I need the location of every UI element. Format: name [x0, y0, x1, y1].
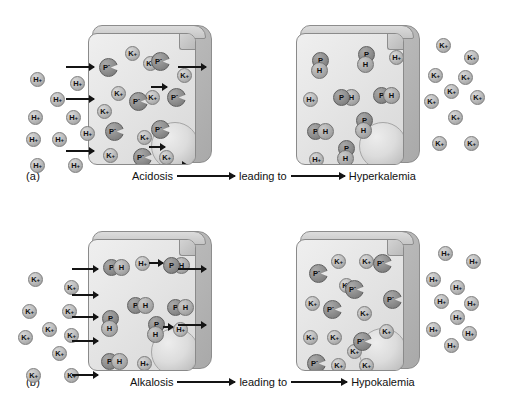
protein-hydrogen-complex: PH [373, 86, 400, 105]
hydrogen-part: H [317, 123, 334, 140]
protein-hydrogen-complex: PH [357, 46, 377, 73]
influx-arrow-hydrogen [66, 66, 94, 68]
potassium-ion: K+ [64, 280, 79, 295]
caption-alkalosis: Alkalosis leading to Hypokalemia [130, 376, 415, 388]
efflux-arrow-hydrogen [178, 324, 206, 326]
hydrogen-ion: H+ [426, 322, 441, 337]
panel-row-acidosis: (a) K+K+K+K+K+K+K+K+K+P-P-P-P-P-P-P- H+H… [0, 0, 507, 206]
potassium-ion: K+ [111, 86, 126, 101]
caption-arrow-1 [177, 175, 235, 176]
potassium-ion: K+ [428, 68, 443, 83]
cell-front-face: H+H+H+PHPHHPPHPHPHPH [296, 33, 404, 165]
protein-hydrogen-complex: PH [101, 310, 121, 337]
potassium-ion: K+ [424, 94, 439, 109]
potassium-ion: K+ [26, 368, 41, 383]
protein-hydrogen-complex: HP [163, 256, 190, 275]
protein-anion: P- [129, 92, 148, 111]
hydrogen-ion: H+ [26, 132, 41, 147]
cell-bevel-corner [387, 239, 404, 256]
hydrogen-part: H [311, 62, 328, 79]
potassium-ion: K+ [444, 84, 459, 99]
cell-bevel-corner [179, 239, 196, 256]
protein-anion: P- [345, 280, 364, 299]
caption-cause: Acidosis [132, 170, 173, 182]
caption-acidosis: Acidosis leading to Hyperkalemia [132, 170, 416, 182]
hydrogen-part: H [355, 122, 372, 139]
caption-connector: leading to [239, 170, 287, 182]
protein-hydrogen-complex: PH [103, 258, 130, 277]
potassium-ion: K+ [327, 330, 342, 345]
potassium-ion: K+ [379, 324, 394, 339]
hydrogen-part: H [147, 326, 164, 343]
hydrogen-ion: H+ [70, 76, 85, 91]
potassium-ion: K+ [22, 304, 37, 319]
potassium-ion: K+ [64, 368, 79, 383]
hydrogen-ion: H+ [466, 254, 481, 269]
hydrogen-ion: H+ [28, 110, 43, 125]
hydrogen-ion: H+ [30, 158, 45, 173]
hydrogen-ion: H+ [464, 296, 479, 311]
influx-arrow-potassium [72, 374, 98, 376]
potassium-ion: K+ [464, 50, 479, 65]
potassium-ion: K+ [359, 254, 374, 269]
influx-arrow-hydrogen [66, 150, 94, 152]
potassium-ion: K+ [97, 104, 112, 119]
internal-exchange-arrow [163, 326, 173, 328]
potassium-ion: K+ [42, 322, 57, 337]
potassium-ion: K+ [470, 90, 485, 105]
influx-arrow-potassium [72, 268, 98, 270]
caption-effect: Hypokalemia [351, 376, 415, 388]
protein-part: P [163, 257, 180, 274]
extracellular-hydrogen-cluster: H+H+H+H+H+H+H+H+H+H+ [8, 28, 98, 178]
potassium-ion: K+ [448, 110, 463, 125]
hydrogen-ion: H+ [50, 92, 65, 107]
extracellular-hydrogen-cluster: H+H+H+H+H+H+H+H+H+H+ [424, 234, 507, 384]
hydrogen-ion: H+ [66, 110, 81, 125]
potassium-ion: K+ [331, 254, 346, 269]
acidosis-initial-cell: K+K+K+K+K+K+K+K+K+P-P-P-P-P-P-P- [88, 25, 208, 165]
extracellular-potassium-cluster: K+K+K+K+K+K+K+K+K+K+ [8, 234, 98, 384]
hyperkalemia-result-cell: H+H+H+PHPHHPPHPHPHPH [296, 25, 416, 165]
hypokalemia-result-cell: K+K+K+K+K+K+K+K+K+K+K+P-P-P-P-P-P-P- [296, 231, 416, 371]
protein-anion: P- [99, 58, 118, 77]
potassium-ion: K+ [28, 272, 43, 287]
potassium-ion: K+ [432, 136, 447, 151]
protein-hydrogen-complex: PH [167, 298, 194, 317]
hydrogen-ion: H+ [135, 256, 150, 271]
hydrogen-part: H [101, 320, 118, 337]
cell-front-face: H+H+H+PHHPPHPHPHPHPH [88, 239, 196, 371]
caption-connector: leading to [239, 376, 287, 388]
potassium-ion: K+ [359, 358, 374, 371]
cell-front-face: K+K+K+K+K+K+K+K+K+K+K+P-P-P-P-P-P-P- [296, 239, 404, 371]
potassium-ion: K+ [177, 68, 192, 83]
potassium-ion: K+ [436, 38, 451, 53]
potassium-ion: K+ [458, 70, 473, 85]
internal-exchange-arrow [149, 262, 163, 264]
cell-bevel-corner [387, 33, 404, 50]
hydrogen-ion: H+ [438, 246, 453, 261]
influx-arrow-potassium [72, 340, 98, 342]
alkalosis-initial-cell: H+H+H+PHHPPHPHPHPHPH [88, 231, 208, 371]
hydrogen-ion: H+ [303, 92, 318, 107]
hydrogen-ion: H+ [462, 326, 477, 341]
hydrogen-part: H [383, 87, 400, 104]
hydrogen-ion: H+ [137, 356, 152, 371]
hydrogen-part: H [137, 297, 154, 314]
protein-part: P [333, 89, 350, 106]
influx-arrow-potassium [72, 294, 98, 296]
internal-exchange-arrow [151, 86, 167, 88]
extracellular-potassium-cluster: K+K+K+K+K+K+K+K+K+K+ [424, 28, 507, 178]
protein-anion: P- [323, 300, 342, 319]
potassium-ion: K+ [18, 330, 33, 345]
panel-row-alkalosis: (b) H+H+H+PHHPPHPHPHPHPH K+K+K+K+K+K+K+K… [0, 206, 507, 412]
hydrogen-ion: H+ [309, 152, 324, 165]
hydrogen-ion: H+ [389, 50, 404, 65]
protein-anion: P- [133, 148, 152, 165]
efflux-arrow-hydrogen [178, 268, 206, 270]
caption-arrow-2 [291, 381, 347, 382]
protein-anion: P- [373, 254, 392, 273]
protein-anion: P- [383, 290, 402, 309]
caption-arrow-1 [177, 381, 235, 382]
caption-cause: Alkalosis [130, 376, 173, 388]
protein-hydrogen-complex: PH [311, 52, 331, 79]
